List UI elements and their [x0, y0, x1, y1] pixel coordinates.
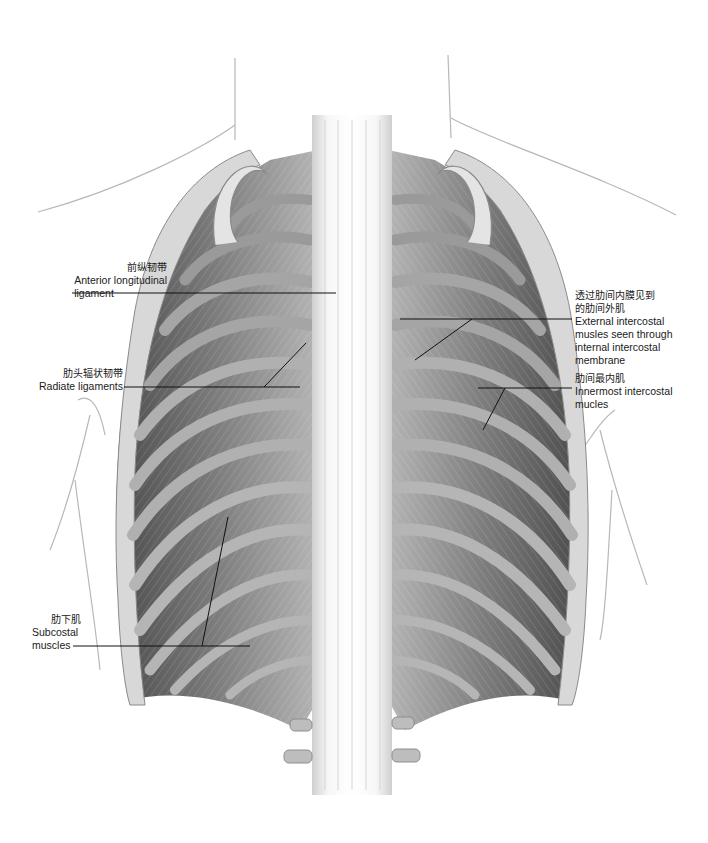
arm-right-line2	[600, 490, 612, 640]
label-zh-line2: 的肋间外肌	[575, 302, 672, 315]
label-radiate-ligaments: 肋头辐状韧带 Radiate ligaments	[39, 367, 123, 393]
label-en-line3: internal intercostal	[575, 341, 672, 354]
label-en-line2: musles seen through	[575, 328, 672, 341]
arm-right-line1	[600, 430, 647, 585]
label-en-line2: mucles	[575, 398, 672, 411]
label-anterior-longitudinal-ligament: 前纵韧带 Anterior longitudinal ligament	[74, 261, 167, 300]
arm-right-outer	[583, 410, 615, 448]
label-zh: 肋间最内肌	[575, 372, 672, 385]
neck-right-outline	[448, 55, 451, 138]
label-en-line1: External intercostal	[575, 315, 672, 328]
label-zh-line1: 透过肋间内膜见到	[575, 289, 672, 302]
label-subcostal-muscles: 肋下肌 Subcostal muscles	[32, 613, 81, 652]
label-zh: 肋头辐状韧带	[39, 367, 123, 380]
rib-cage-illustration	[0, 0, 708, 843]
label-zh: 肋下肌	[32, 613, 81, 626]
arm-left-line1	[50, 415, 90, 550]
label-en-line1: Radiate ligaments	[39, 380, 123, 393]
label-en-line2: muscles	[32, 639, 81, 652]
label-en-line2: ligament	[74, 287, 167, 300]
arm-left-outer	[78, 398, 105, 435]
label-innermost-intercostal: 肋间最内肌 Innermost intercostal mucles	[575, 372, 672, 411]
label-en-line1: Subcostal	[32, 626, 81, 639]
label-en-line1: Anterior longitudinal	[74, 274, 167, 287]
label-en-line4: membrane	[575, 354, 672, 367]
label-external-intercostal: 透过肋间内膜见到 的肋间外肌 External intercostal musl…	[575, 289, 672, 367]
label-en-line1: Innermost intercostal	[575, 385, 672, 398]
label-zh: 前纵韧带	[74, 261, 167, 274]
